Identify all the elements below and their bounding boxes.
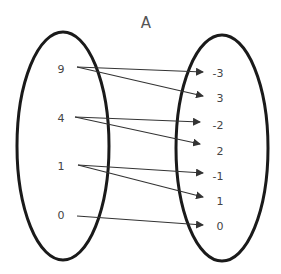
domain-item-1: 1 <box>58 160 65 173</box>
diagram-title: A <box>141 14 152 32</box>
range-item-neg1: -1 <box>213 170 224 183</box>
domain-item-4: 4 <box>58 112 65 125</box>
range-item-3: 3 <box>217 92 224 105</box>
mapping-diagram: A 9 4 1 0 -3 3 -2 2 -1 1 0 <box>0 0 281 274</box>
domain-item-9: 9 <box>58 63 65 76</box>
range-item-0: 0 <box>217 220 224 233</box>
arrow-1-to-neg1 <box>78 165 203 173</box>
range-item-neg2: -2 <box>213 119 224 132</box>
domain-item-0: 0 <box>58 209 65 222</box>
range-item-2: 2 <box>217 145 224 158</box>
range-item-neg3: -3 <box>213 67 224 80</box>
range-item-1: 1 <box>217 195 224 208</box>
mapping-arrows <box>75 67 203 225</box>
arrow-1-to-1 <box>78 165 203 197</box>
